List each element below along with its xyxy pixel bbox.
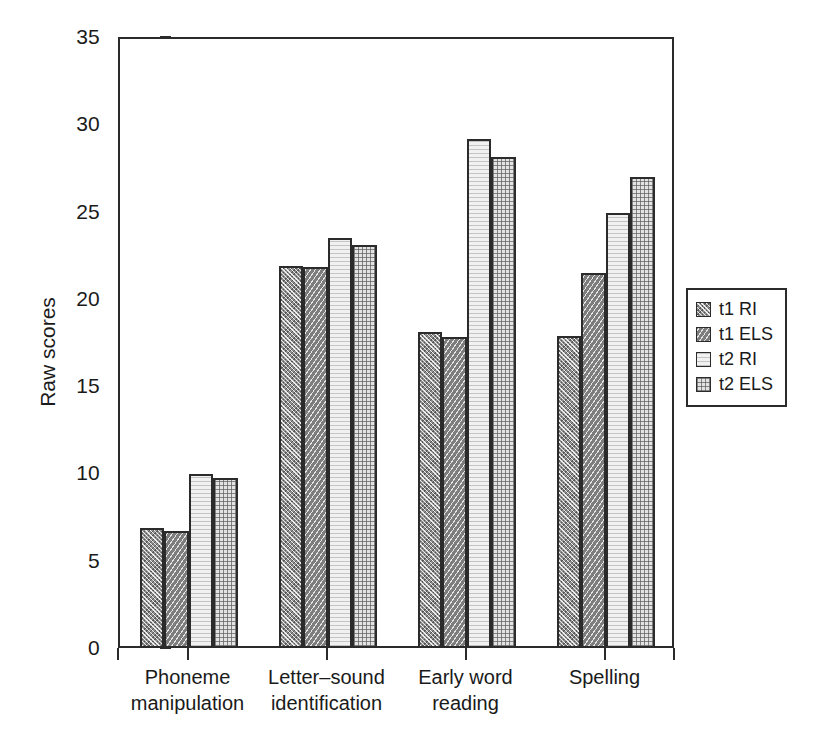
y-tick-label: 15 — [76, 374, 100, 398]
x-axis-edge-tick — [673, 648, 675, 660]
bar — [491, 157, 516, 648]
bar — [279, 266, 304, 648]
x-tick-mark — [604, 648, 606, 660]
y-tick-label: 20 — [76, 287, 100, 311]
x-tick-label-line: Spelling — [515, 664, 695, 690]
bar — [140, 528, 165, 648]
legend-swatch-icon — [696, 352, 711, 367]
bar — [213, 478, 238, 648]
bars-layer — [118, 37, 674, 648]
x-tick-mark — [187, 648, 189, 660]
legend-item-label: t2 RI — [719, 349, 757, 370]
y-tick-label: 35 — [76, 25, 100, 49]
bar — [328, 238, 353, 648]
y-tick-label: 10 — [76, 461, 100, 485]
y-axis-title: Raw scores — [36, 242, 60, 462]
bar — [164, 531, 189, 648]
legend-item[interactable]: t2 ELS — [696, 372, 777, 397]
legend-item-label: t1 RI — [719, 299, 757, 320]
legend-item-label: t2 ELS — [719, 374, 773, 395]
x-tick-mark — [326, 648, 328, 660]
bar — [189, 474, 214, 648]
bar — [303, 267, 328, 648]
legend-swatch-icon — [696, 302, 711, 317]
y-tick-label: 30 — [76, 112, 100, 136]
bar — [557, 336, 582, 648]
x-tick-mark — [465, 648, 467, 660]
legend-item[interactable]: t1 RI — [696, 297, 777, 322]
legend-swatch-icon — [696, 327, 711, 342]
y-tick-label: 25 — [76, 200, 100, 224]
legend-item[interactable]: t2 RI — [696, 347, 777, 372]
bar — [606, 213, 631, 648]
x-tick-label-line: reading — [376, 690, 556, 716]
bar — [418, 332, 443, 648]
legend-swatch-icon — [696, 377, 711, 392]
bar — [352, 245, 377, 648]
bar — [442, 337, 467, 648]
bar — [467, 139, 492, 648]
legend-item[interactable]: t1 ELS — [696, 322, 777, 347]
x-tick-label: Spelling — [515, 664, 695, 690]
bar-chart-figure: 05101520253035 Raw scores Phonememanipul… — [0, 0, 820, 736]
x-axis-edge-tick — [117, 648, 119, 660]
bar — [581, 273, 606, 648]
bar — [630, 177, 655, 648]
y-tick-label: 5 — [88, 549, 100, 573]
legend-item-label: t1 ELS — [719, 324, 773, 345]
legend: t1 RIt1 ELSt2 RIt2 ELS — [686, 288, 787, 407]
y-tick-label: 0 — [88, 636, 100, 660]
